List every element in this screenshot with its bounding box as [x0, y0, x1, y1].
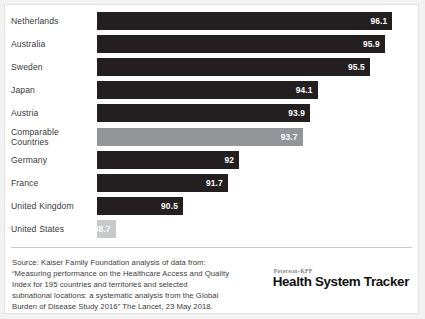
bar-track: 90.5 [97, 195, 418, 218]
bar-value-label: 95.5 [348, 62, 365, 72]
bar[interactable]: 92 [97, 151, 239, 169]
bar-chart: Netherlands96.1Australia95.9Sweden95.5Ja… [5, 9, 418, 247]
chart-card: Netherlands96.1Australia95.9Sweden95.5Ja… [4, 4, 419, 314]
chart-footer: Source: Kaiser Family Foundation analysi… [5, 253, 418, 313]
footer-divider [11, 247, 412, 248]
bar-value-label: 93.9 [288, 108, 305, 118]
source-line: Burden of Disease Study 2016” The Lancet… [12, 301, 274, 312]
bar[interactable]: 95.5 [97, 58, 370, 76]
source-line: Index for 195 countries and territories … [12, 279, 274, 290]
bar-row-label: Japan [5, 85, 97, 95]
source-line: subnational locations: a systematic anal… [12, 290, 274, 301]
source-line: “Measuring performance on the Healthcare… [12, 268, 274, 279]
bar[interactable]: 93.7 [97, 128, 303, 146]
bar-row-label: Sweden [5, 62, 97, 72]
brand-logo: Peterson-KFF Health System Tracker [273, 267, 409, 289]
bar-track: 93.7 [97, 125, 418, 148]
bar-row-label: Comparable Countries [5, 127, 97, 147]
bar-value-label: 94.1 [296, 85, 313, 95]
bar-row: Austria93.9 [5, 102, 418, 125]
bar-value-label: 91.7 [206, 178, 223, 188]
bar-row-label: France [5, 178, 97, 188]
bar-value-label: 95.9 [363, 39, 380, 49]
bar-row-label: Austria [5, 108, 97, 118]
bar-track: 91.7 [97, 171, 418, 194]
bar-row: United States88.7 [5, 218, 418, 241]
bar-row: Australia95.9 [5, 32, 418, 55]
bar-value-label: 90.5 [161, 201, 178, 211]
bar[interactable]: 91.7 [97, 174, 228, 192]
bar-row-label: Germany [5, 155, 97, 165]
bar[interactable]: 94.1 [97, 81, 318, 99]
bar[interactable]: 96.1 [97, 12, 392, 30]
bar-row-label: United States [5, 224, 97, 234]
bar[interactable]: 88.7 [97, 220, 116, 238]
bar-row-label: Netherlands [5, 16, 97, 26]
bar[interactable]: 90.5 [97, 197, 183, 215]
bar-row-label: Australia [5, 39, 97, 49]
bar-row-label: United Kingdom [5, 201, 97, 211]
bar-row: Netherlands96.1 [5, 9, 418, 32]
bar-row: France91.7 [5, 171, 418, 194]
bar[interactable]: 95.9 [97, 35, 385, 53]
bar-value-label: 88.7 [94, 224, 111, 234]
bar-track: 92 [97, 148, 418, 171]
bar-row: Germany92 [5, 148, 418, 171]
bar-row: United Kingdom90.5 [5, 195, 418, 218]
bar-row: Comparable Countries93.7 [5, 125, 418, 148]
bar-track: 88.7 [97, 218, 418, 241]
bar-track: 94.1 [97, 79, 418, 102]
bar-track: 96.1 [97, 9, 418, 32]
bar-value-label: 93.7 [281, 132, 298, 142]
bar-value-label: 96.1 [370, 16, 387, 26]
bar-track: 93.9 [97, 102, 418, 125]
bar-value-label: 92 [224, 155, 234, 165]
source-note: Source: Kaiser Family Foundation analysi… [12, 257, 274, 312]
bar-row: Sweden95.5 [5, 55, 418, 78]
bar-row: Japan94.1 [5, 79, 418, 102]
logo-title: Health System Tracker [273, 275, 409, 289]
bar-track: 95.9 [97, 32, 418, 55]
source-line: Source: Kaiser Family Foundation analysi… [12, 257, 274, 268]
logo-eyebrow: Peterson-KFF [273, 267, 409, 274]
bar-track: 95.5 [97, 55, 418, 78]
bar[interactable]: 93.9 [97, 104, 310, 122]
